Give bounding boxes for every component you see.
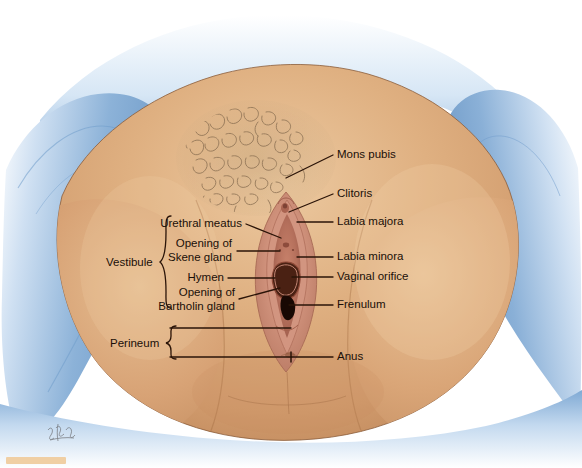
- color-swatch-bar: [6, 457, 66, 464]
- label-opening-of-skene-gland: Opening of Skene gland: [74, 237, 232, 264]
- vaginal-orifice-shape: [272, 262, 300, 299]
- label-hymen: Hymen: [74, 271, 224, 284]
- clitoris-glans: [283, 203, 287, 208]
- label-bartholin-line1: Opening of: [179, 286, 235, 298]
- label-opening-of-bartholin-gland: Opening of Bartholin gland: [64, 286, 235, 313]
- label-mons-pubis: Mons pubis: [337, 148, 396, 161]
- illustration-canvas: [0, 0, 582, 468]
- label-skene-line2: Skene gland: [168, 251, 232, 263]
- label-vestibule: Vestibule: [106, 256, 153, 269]
- label-perineum: Perineum: [110, 337, 159, 350]
- label-frenulum: Frenulum: [337, 298, 386, 311]
- urethral-meatus-shape: [283, 243, 289, 248]
- mons-shading: [176, 100, 336, 216]
- skene-gland-opening-right: [292, 249, 294, 251]
- label-bartholin-line2: Bartholin gland: [158, 300, 235, 312]
- label-vaginal-orifice: Vaginal orifice: [337, 270, 408, 283]
- label-urethral-meatus: Urethral meatus: [74, 217, 242, 230]
- label-labia-majora: Labia majora: [337, 215, 403, 228]
- label-skene-line1: Opening of: [176, 237, 232, 249]
- label-clitoris: Clitoris: [337, 187, 372, 200]
- label-labia-minora: Labia minora: [337, 250, 403, 263]
- anatomy-figure: Mons pubis Clitoris Labia majora Labia m…: [0, 0, 582, 468]
- label-anus: Anus: [337, 350, 363, 363]
